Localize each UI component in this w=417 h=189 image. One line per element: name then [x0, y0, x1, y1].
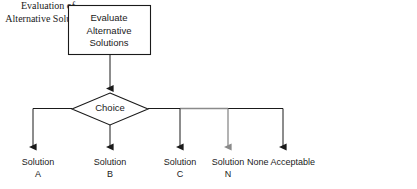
flowchart-canvas: Evaluate Alternative Solutions Choice So…: [0, 0, 417, 189]
terminal-label-solution-a: Solution A: [8, 157, 68, 180]
terminal-label-solution-b: Solution B: [80, 157, 140, 180]
process-box-label: Evaluate Alternative Solutions: [68, 12, 150, 50]
terminal-label-none-acceptable: None Acceptable: [247, 157, 321, 169]
decision-label: Choice: [72, 103, 148, 114]
